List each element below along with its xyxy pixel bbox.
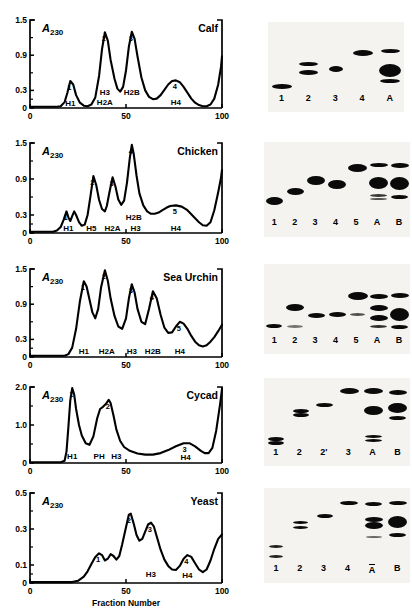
x-tick-label: 50 bbox=[121, 360, 131, 370]
x-tick-label: 50 bbox=[121, 586, 131, 596]
peak-number: 1 bbox=[96, 555, 100, 564]
panel-title: Sea Urchin bbox=[163, 271, 218, 283]
peak-number: 5 bbox=[177, 324, 181, 333]
histone-label: H2B bbox=[126, 213, 142, 222]
plot-area: 00.30.91.5050100A230Calf1234H1H3H2AH2BH4 bbox=[0, 2, 250, 127]
gel-band bbox=[370, 325, 387, 328]
gel-band bbox=[266, 324, 282, 328]
gel-band bbox=[286, 304, 304, 311]
gel-lane-label: 2 bbox=[306, 94, 311, 103]
gel-band bbox=[369, 177, 388, 189]
gel-lane-label: 2 bbox=[292, 336, 297, 345]
gel-band bbox=[293, 413, 309, 417]
y-tick-label: 0 bbox=[22, 103, 27, 113]
y-tick-label: 0.9 bbox=[15, 299, 27, 309]
y-tick-label: 0.9 bbox=[15, 174, 27, 184]
gel-band bbox=[340, 501, 358, 505]
y-tick-label: 1.5 bbox=[15, 15, 27, 25]
peak-number: 4 bbox=[184, 557, 189, 566]
peak-number: 3 bbox=[129, 286, 133, 295]
gel-band bbox=[328, 180, 346, 189]
gel-lane-labels: 12345AB bbox=[264, 336, 410, 345]
chromatogram-sea-urchin: 00.30.91.5050100A230Sea Urchin12345H1H2A… bbox=[0, 255, 250, 375]
gel-band bbox=[316, 403, 333, 407]
histone-chromatography-figure: 00.30.91.5050100A230Calf1234H1H3H2AH2BH4… bbox=[0, 0, 412, 611]
gel-band bbox=[391, 195, 408, 199]
gel-band bbox=[379, 64, 401, 77]
y-axis-title: A230 bbox=[41, 145, 64, 160]
histone-label: H4 bbox=[180, 453, 191, 462]
gel-band bbox=[329, 66, 343, 72]
gel-band bbox=[389, 501, 407, 505]
gel-band bbox=[350, 313, 365, 316]
gel-band bbox=[272, 84, 292, 89]
gel-lane-label: 3 bbox=[313, 336, 318, 345]
panel-title: Cycad bbox=[186, 389, 218, 401]
gel-lane-label: 4 bbox=[333, 336, 338, 345]
gel-band bbox=[365, 439, 382, 442]
gel-band bbox=[293, 521, 308, 524]
gel-band bbox=[299, 62, 318, 66]
x-tick-label: 100 bbox=[215, 360, 229, 370]
gel-lane-label: 1 bbox=[272, 336, 277, 345]
gel-lane-label: 3 bbox=[321, 564, 326, 573]
gel-lane-label: B bbox=[396, 218, 403, 227]
peak-number: 1 bbox=[69, 390, 73, 399]
y-axis-title: A230 bbox=[41, 389, 64, 404]
panel-title: Chicken bbox=[177, 145, 218, 157]
gel-band bbox=[293, 526, 308, 529]
x-tick-label: 0 bbox=[28, 360, 33, 370]
gel-band bbox=[307, 176, 325, 185]
y-tick-label: 1.5 bbox=[15, 264, 27, 274]
gel-band bbox=[348, 164, 367, 172]
gel-band bbox=[390, 308, 409, 321]
histone-label: H2B bbox=[124, 88, 140, 97]
histone-label: H3 bbox=[111, 452, 122, 461]
gel-band bbox=[269, 545, 283, 548]
gel-lane-labels: 12345AB bbox=[264, 218, 410, 227]
gel-band bbox=[381, 49, 400, 53]
gel-lane-label: 2 bbox=[292, 218, 297, 227]
x-tick-label: 100 bbox=[215, 111, 229, 121]
gel-band bbox=[370, 163, 388, 167]
peak-number: 2 bbox=[127, 516, 131, 525]
gel-band bbox=[365, 522, 383, 529]
y-tick-label: 1.5 bbox=[15, 138, 27, 148]
gel-band bbox=[329, 312, 346, 317]
gel-band bbox=[266, 197, 283, 205]
y-tick-label: 0 bbox=[22, 228, 27, 238]
gel-lane-labels: 1234AB bbox=[264, 564, 410, 575]
gel-lane-label: A bbox=[374, 218, 381, 227]
histone-label: H1 bbox=[67, 452, 78, 461]
gel-lane-label: B bbox=[396, 336, 403, 345]
chromatogram-chicken: 00.30.91.5050100A230Chicken12345H1H5H2AH… bbox=[0, 127, 250, 255]
peak-number: 3 bbox=[109, 179, 113, 188]
y-tick-label: 0.5 bbox=[15, 488, 27, 498]
gel-lane-labels: 1234A bbox=[268, 94, 404, 103]
gel-band bbox=[370, 294, 388, 299]
gel-lane-label: 2' bbox=[320, 448, 327, 457]
x-tick-label: 0 bbox=[28, 586, 33, 596]
peak-number: 1 bbox=[63, 213, 67, 222]
x-tick-label: 100 bbox=[215, 236, 229, 246]
histone-label: H2A bbox=[99, 347, 115, 356]
gel-band bbox=[389, 533, 406, 537]
gel-lane-label: A bbox=[387, 94, 394, 103]
chromatogram-yeast: 00.10.30.5050100A230Yeast1234H3H4Fractio… bbox=[0, 481, 250, 609]
gel-band bbox=[364, 406, 383, 415]
calf-gel: 1234A bbox=[268, 22, 404, 112]
y-tick-label: 0.1 bbox=[15, 560, 27, 570]
gel-lane-label: 1 bbox=[273, 564, 278, 573]
gel-lane-label: 5 bbox=[353, 218, 358, 227]
gel-band bbox=[340, 388, 359, 394]
y-tick-label: 2.0 bbox=[15, 382, 27, 392]
gel-lane-label: A bbox=[369, 564, 376, 575]
peak-number: 2 bbox=[106, 402, 110, 411]
y-axis-title: A230 bbox=[41, 271, 64, 286]
gel-lane-label: 1 bbox=[279, 94, 284, 103]
x-tick-label: 0 bbox=[28, 236, 33, 246]
gel-band bbox=[299, 70, 318, 75]
panel-title: Calf bbox=[198, 22, 218, 34]
gel-band bbox=[391, 163, 409, 168]
gel-band bbox=[308, 313, 325, 318]
